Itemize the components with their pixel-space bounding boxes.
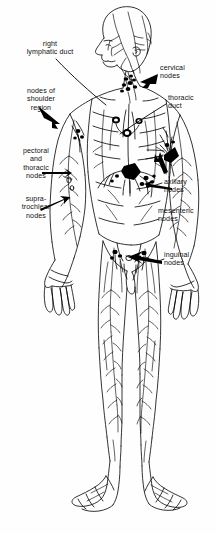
label-pectoral-and-thoracic-nodes: pectoral and thoracic nodes (4, 147, 68, 181)
shoulder-region-nodes (72, 121, 84, 152)
label-right-lymphatic-duct: right lymphatic duct (12, 40, 88, 57)
label-thoracic-duct: thoracic duct (168, 94, 216, 111)
arrow-cervical (140, 74, 158, 88)
leader-thoracic-duct (120, 104, 166, 134)
label-inguinal-nodes: inguinal nodes (164, 251, 216, 268)
cervical-node-cluster (120, 72, 137, 103)
right-hand (168, 259, 198, 319)
left-hand (44, 258, 74, 315)
mesenteric-node-cluster (98, 163, 156, 197)
label-cervical-nodes: cervical nodes (160, 64, 214, 81)
label-supra-trochlear-nodes: supra- trochlear nodes (4, 195, 68, 220)
legs-outline (72, 241, 187, 511)
lymphatic-system-diagram: right lymphatic duct nodes of shoulder r… (0, 0, 216, 533)
left-arm-vessels (59, 120, 81, 246)
pelvis-outline (99, 234, 159, 294)
label-nodes-of-shoulder-region: nodes of shoulder region (8, 87, 74, 112)
label-mesenteric-nodes: mesenteric nodes (158, 207, 216, 224)
inguinal-node-cluster (110, 250, 149, 273)
head-lymphatic-vessels (108, 12, 151, 74)
label-axillary-nodes: axillary nodes (164, 178, 214, 195)
pectoral-thoracic-nodes (112, 117, 143, 137)
